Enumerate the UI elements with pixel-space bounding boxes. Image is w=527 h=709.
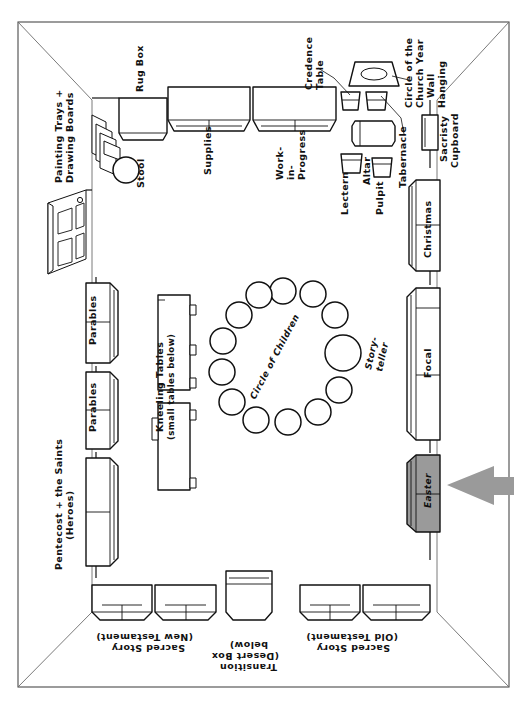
sacred-story-nt-shelf-b[interactable] bbox=[155, 585, 216, 620]
label-sacred-story-nt-2: (New Testament) bbox=[96, 632, 193, 643]
lectern-box[interactable] bbox=[341, 154, 362, 173]
circle-of-children-group bbox=[209, 278, 361, 435]
label-painting-trays-1: Painting Trays + bbox=[53, 89, 64, 183]
storyteller-seat[interactable] bbox=[325, 335, 361, 371]
child-seat[interactable] bbox=[305, 399, 331, 425]
label-credence-table-1: Credence bbox=[303, 37, 314, 90]
credence-table[interactable] bbox=[341, 92, 360, 110]
child-seat[interactable] bbox=[300, 281, 326, 307]
work-in-progress-shelf[interactable] bbox=[253, 87, 336, 131]
pentecost-saints-shelf[interactable] bbox=[86, 452, 118, 578]
label-rug-box: Rug Box bbox=[134, 45, 145, 92]
sacred-story-nt-shelf-a[interactable] bbox=[92, 585, 152, 620]
label-christmas: Christmas bbox=[422, 201, 433, 258]
label-transition-2: (Desert Box bbox=[211, 651, 279, 662]
label-transition-3: below) bbox=[229, 640, 268, 651]
label-pentecost-1: Pentecost + the Saints bbox=[53, 439, 64, 570]
label-easter: Easter bbox=[423, 473, 433, 508]
label-circle-of-children: Circle of Children bbox=[248, 313, 301, 401]
label-tabernacle: Tabernacle bbox=[397, 126, 408, 188]
transition-desert-box[interactable] bbox=[226, 571, 272, 620]
child-seat[interactable] bbox=[210, 328, 236, 354]
easter-highlight-arrow bbox=[447, 466, 514, 505]
child-seat[interactable] bbox=[219, 389, 245, 415]
child-seat[interactable] bbox=[246, 282, 272, 308]
pulpit-box[interactable] bbox=[372, 158, 392, 177]
label-parables-upper: Parables bbox=[87, 295, 98, 345]
altar-box[interactable] bbox=[352, 121, 395, 146]
label-painting-trays-2: Drawing Boards bbox=[64, 92, 75, 183]
label-church-year-4: Hanging bbox=[436, 60, 447, 108]
sacred-story-ot-shelf-a[interactable] bbox=[300, 585, 360, 620]
sacred-story-ot-shelf-b[interactable] bbox=[363, 585, 430, 620]
label-pentecost-2: (Heroes) bbox=[64, 490, 75, 540]
child-seat[interactable] bbox=[270, 278, 296, 304]
child-seat[interactable] bbox=[326, 377, 352, 403]
floor-plan-canvas: Rug Box Supplies Work- in- Progress Cred… bbox=[0, 0, 527, 709]
label-sacred-story-ot-1: Sacred Story bbox=[316, 643, 390, 654]
door[interactable] bbox=[48, 190, 92, 274]
label-sacred-story-nt-1: Sacred Story bbox=[111, 643, 185, 654]
label-altar: Altar bbox=[361, 157, 372, 185]
label-pulpit: Pulpit bbox=[374, 181, 385, 215]
label-supplies: Supplies bbox=[202, 126, 213, 175]
label-sacristy-2: Cupboard bbox=[449, 113, 460, 168]
label-stool: Stool bbox=[135, 158, 146, 188]
label-church-year-3: Wall bbox=[425, 73, 436, 98]
label-kneeling-tables-1: Kneeling Tables bbox=[154, 342, 165, 432]
child-seat[interactable] bbox=[322, 302, 348, 328]
room-floor-plan-svg: Rug Box Supplies Work- in- Progress Cred… bbox=[0, 0, 527, 709]
label-transition-1: Transition bbox=[220, 662, 277, 673]
label-kneeling-tables-2: (small tables below) bbox=[166, 334, 176, 440]
child-seat[interactable] bbox=[209, 359, 235, 385]
label-sacristy-1: Sacristy bbox=[438, 115, 449, 162]
child-seat[interactable] bbox=[243, 407, 269, 433]
label-church-year-1: Circle of the bbox=[403, 38, 414, 108]
church-year-wall-hanging[interactable] bbox=[349, 62, 399, 86]
label-church-year-2: Church Year bbox=[414, 39, 425, 108]
label-credence-table-2: Table bbox=[314, 60, 325, 90]
child-seat[interactable] bbox=[275, 409, 301, 435]
label-lectern: Lectern bbox=[339, 172, 350, 215]
tabernacle-box[interactable] bbox=[366, 92, 387, 110]
child-seat[interactable] bbox=[226, 302, 252, 328]
label-work-in-progress-2: in- bbox=[285, 165, 296, 180]
label-work-in-progress-3: Progress bbox=[296, 129, 307, 180]
label-parables-lower: Parables bbox=[87, 382, 98, 432]
label-work-in-progress-1: Work- bbox=[274, 146, 285, 180]
label-sacred-story-ot-2: (Old Testament) bbox=[306, 632, 398, 643]
label-focal: Focal bbox=[422, 348, 433, 378]
sacristy-cupboard[interactable] bbox=[422, 100, 438, 168]
supplies-shelf[interactable] bbox=[168, 87, 250, 131]
